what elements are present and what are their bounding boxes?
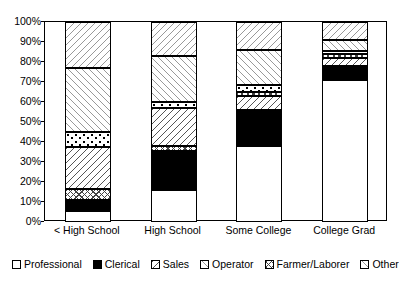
bar-segment-professional[interactable] (151, 190, 197, 222)
bar-segment-operator[interactable] (151, 102, 197, 108)
y-tick-mark (41, 221, 44, 222)
bar-segment-other[interactable] (151, 56, 197, 102)
chart-legend: ProfessionalClericalSalesOperatorFarmer/… (12, 256, 392, 272)
bar-segment-none[interactable] (151, 22, 197, 56)
bar-segment-operator[interactable] (322, 51, 368, 54)
x-tick-label: < High School (44, 224, 130, 236)
bar-segment-operator[interactable] (65, 132, 111, 147)
y-tick-label: 0% (0, 216, 41, 227)
bar-segment-farmer-laborer[interactable] (236, 92, 282, 96)
legend-swatch-icon (360, 260, 369, 269)
legend-item-professional[interactable]: Professional (12, 259, 82, 270)
legend-swatch-icon (151, 260, 160, 269)
legend-item-sales[interactable]: Sales (151, 259, 189, 270)
bar-segment-farmer-laborer[interactable] (65, 189, 111, 200)
bar-segment-sales[interactable] (236, 96, 282, 110)
bar-segment-other[interactable] (322, 40, 368, 51)
bar-segment-professional[interactable] (236, 146, 282, 222)
bar-segment-sales[interactable] (65, 147, 111, 189)
bar-segment-clerical[interactable] (151, 151, 197, 190)
legend-label: Other (372, 259, 398, 270)
legend-swatch-icon (12, 260, 21, 269)
y-tick-label: 20% (0, 176, 41, 187)
bar-segment-none[interactable] (322, 22, 368, 40)
legend-label: Farmer/Laborer (277, 259, 350, 270)
y-tick-label: 10% (0, 196, 41, 207)
legend-label: Sales (163, 259, 189, 270)
legend-label: Clerical (105, 259, 140, 270)
x-tick-label: High School (130, 224, 216, 236)
plot-area (44, 21, 387, 221)
legend-item-other[interactable]: Other (360, 259, 398, 270)
bar-some-college[interactable] (236, 22, 282, 222)
bar-segment-farmer-laborer[interactable] (322, 54, 368, 58)
legend-label: Operator (212, 259, 253, 270)
y-tick-label: 30% (0, 156, 41, 167)
bar-high-school[interactable] (151, 22, 197, 222)
y-tick-label: 70% (0, 76, 41, 87)
stacked-bar-chart: 100%90%80%70%60%50%40%30%20%10%0% < High… (0, 0, 399, 284)
y-tick-label: 50% (0, 116, 41, 127)
legend-item-farmer-laborer[interactable]: Farmer/Laborer (265, 259, 350, 270)
bar-segment-farmer-laborer[interactable] (151, 146, 197, 151)
bar-segment-sales[interactable] (322, 58, 368, 66)
bar-segment-none[interactable] (65, 22, 111, 68)
x-tick-label: Some College (216, 224, 302, 236)
bar-segment-none[interactable] (236, 22, 282, 50)
bar-high-school[interactable] (65, 22, 111, 222)
x-axis: < High SchoolHigh SchoolSome CollegeColl… (44, 224, 387, 240)
bar-segment-other[interactable] (236, 50, 282, 85)
bar-segment-sales[interactable] (151, 108, 197, 146)
legend-swatch-icon (265, 260, 274, 269)
bar-segment-clerical[interactable] (322, 66, 368, 80)
bar-segment-professional[interactable] (322, 80, 368, 222)
legend-item-operator[interactable]: Operator (200, 259, 253, 270)
bar-segment-clerical[interactable] (65, 200, 111, 211)
bar-segment-operator[interactable] (236, 85, 282, 92)
y-tick-label: 90% (0, 36, 41, 47)
y-tick-label: 80% (0, 56, 41, 67)
legend-label: Professional (24, 259, 82, 270)
bar-segment-other[interactable] (65, 68, 111, 132)
bar-segment-clerical[interactable] (236, 110, 282, 146)
y-tick-label: 40% (0, 136, 41, 147)
y-tick-label: 100% (0, 16, 41, 27)
bar-college-grad[interactable] (322, 22, 368, 222)
legend-item-clerical[interactable]: Clerical (93, 259, 140, 270)
legend-swatch-icon (93, 260, 102, 269)
bar-segment-professional[interactable] (65, 211, 111, 222)
legend-swatch-icon (200, 260, 209, 269)
x-tick-label: College Grad (301, 224, 387, 236)
y-tick-label: 60% (0, 96, 41, 107)
y-axis: 100%90%80%70%60%50%40%30%20%10%0% (0, 21, 41, 221)
